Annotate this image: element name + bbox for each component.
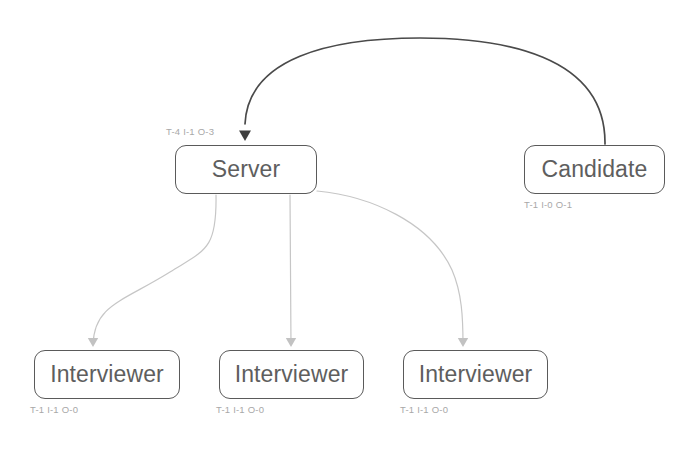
node-label: Interviewer (235, 363, 349, 386)
node-interviewer-1[interactable]: Interviewer (34, 350, 180, 399)
edge-server-to-interviewer-3 (317, 191, 463, 345)
node-interviewer-2[interactable]: Interviewer (219, 350, 364, 399)
arrowhead-server-to-interviewer-1 (88, 338, 98, 347)
node-label: Interviewer (50, 363, 164, 386)
node-label: Interviewer (419, 363, 533, 386)
node-candidate[interactable]: Candidate (524, 145, 665, 194)
node-stat-server: T-4 I-1 O-3 (166, 127, 214, 137)
node-stat-interviewer-3: T-1 I-1 O-0 (400, 405, 448, 415)
node-label: Candidate (542, 158, 648, 181)
arrowhead-server-to-interviewer-2 (286, 338, 296, 347)
diagram-canvas: ServerCandidateInterviewerInterviewerInt… (0, 0, 699, 451)
node-stat-candidate: T-1 I-0 O-1 (524, 200, 572, 210)
edge-candidate-to-server (245, 38, 605, 144)
node-label: Server (212, 158, 280, 181)
node-interviewer-3[interactable]: Interviewer (403, 350, 548, 399)
arrowhead-candidate-to-server (239, 131, 251, 142)
node-server[interactable]: Server (175, 145, 317, 194)
edge-server-to-interviewer-2 (290, 195, 291, 345)
edge-server-to-interviewer-1 (93, 195, 216, 345)
node-stat-interviewer-2: T-1 I-1 O-0 (216, 405, 264, 415)
arrowhead-server-to-interviewer-3 (458, 338, 468, 347)
node-stat-interviewer-1: T-1 I-1 O-0 (30, 405, 78, 415)
